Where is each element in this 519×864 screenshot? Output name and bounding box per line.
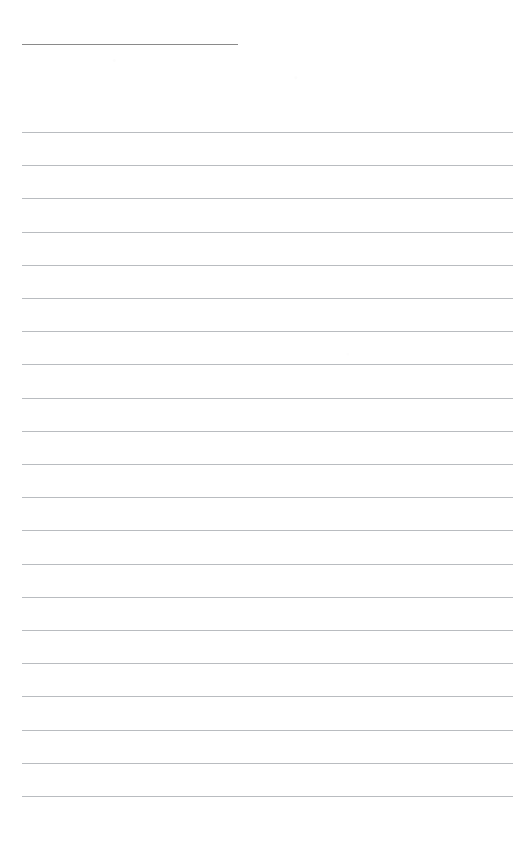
ruled-line[interactable] [22,796,513,797]
ruled-line[interactable] [22,763,513,764]
ruled-line[interactable] [22,198,513,199]
ruled-line[interactable] [22,464,513,465]
ruled-line[interactable] [22,497,513,498]
ruled-line[interactable] [22,530,513,531]
ruled-writing-area[interactable] [0,0,519,864]
ruled-line[interactable] [22,165,513,166]
ruled-line[interactable] [22,364,513,365]
ruled-line[interactable] [22,696,513,697]
ruled-line[interactable] [22,431,513,432]
ruled-line[interactable] [22,132,513,133]
ruled-line[interactable] [22,597,513,598]
ruled-line[interactable] [22,730,513,731]
ruled-line[interactable] [22,331,513,332]
ruled-line[interactable] [22,398,513,399]
ruled-line[interactable] [22,232,513,233]
ruled-line[interactable] [22,564,513,565]
ruled-line[interactable] [22,298,513,299]
ruled-line[interactable] [22,630,513,631]
document-page [0,0,519,864]
ruled-line[interactable] [22,265,513,266]
ruled-line[interactable] [22,663,513,664]
